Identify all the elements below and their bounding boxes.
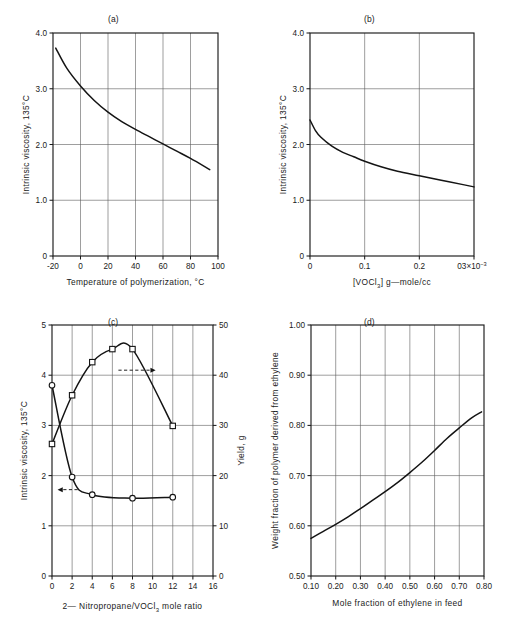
- xtick-label: 4: [90, 582, 95, 591]
- panel-a-plot: -2002040608010001.02.03.04.0 Temperature…: [0, 0, 256, 300]
- data-marker-square: [49, 441, 54, 446]
- ytick-label-right: 50: [219, 321, 229, 330]
- ytick-label-right: 0: [219, 572, 224, 581]
- xtick-label: 14: [188, 582, 198, 591]
- panel-a-curve: [56, 48, 210, 170]
- panel-d-xaxis-title: Mole fraction of ethylene in feed: [332, 598, 462, 608]
- xtick-label: 0.80: [476, 582, 492, 591]
- xtick-label: 40: [131, 262, 141, 271]
- xtick-label: 0.70: [451, 582, 467, 591]
- panel-d-ticklabels: 0.100.200.300.400.500.600.700.800.500.60…: [289, 321, 492, 591]
- ytick-label: 1.0: [293, 196, 305, 205]
- panel-a-xaxis-title: Temperature of polymerization, °C: [66, 277, 204, 287]
- panel-c-right-yaxis-title: Yield, g: [236, 435, 246, 465]
- panel-d-plot: 0.100.200.300.400.500.600.700.800.500.60…: [256, 317, 511, 634]
- left-axis-pointer-head: [58, 487, 63, 492]
- data-marker-square: [130, 346, 135, 351]
- ytick-label: 2.0: [36, 141, 48, 150]
- ytick-label: 0.60: [289, 522, 305, 531]
- xtick-label: 0: [308, 262, 313, 271]
- panel-d-frame: [311, 325, 484, 576]
- ytick-label-left: 1: [41, 522, 46, 531]
- panel-c-left-yaxis-title: Intrinsic viscosity, 135°C: [19, 401, 29, 500]
- panel-d-curve: [311, 412, 482, 538]
- panel-b-xaxis-title: [VOCl3] g—mole/cc: [353, 277, 431, 289]
- panel-b-plot: 00.10.203×10−301.02.03.04.0 [VOCl3] g—mo…: [256, 0, 511, 300]
- panel-c-plot: 024681012141601234501020304050 2— Nitrop…: [0, 317, 256, 634]
- panel-d-gridlines: [311, 325, 484, 576]
- xtick-label: 8: [130, 582, 135, 591]
- ytick-label: 0: [42, 252, 47, 261]
- ytick-label-right: 10: [219, 522, 229, 531]
- panel-d-yaxis-title: Weight fraction of polymer derived from …: [270, 352, 280, 549]
- panel-b-ticklabels: 00.10.203×10−301.02.03.04.0: [293, 29, 487, 271]
- data-marker-square: [110, 346, 115, 351]
- data-marker-square: [69, 393, 74, 398]
- ytick-label: 4.0: [293, 29, 305, 38]
- panel-a-ticklabels: -2002040608010001.02.03.04.0: [36, 29, 226, 271]
- panel-c: (c) 024681012141601234501020304050 2— Ni…: [0, 317, 256, 634]
- ytick-label: 4.0: [36, 29, 48, 38]
- xtick-label: 12: [168, 582, 178, 591]
- data-marker-circle: [69, 474, 75, 480]
- panel-c-ticklabels: 024681012141601234501020304050: [41, 321, 228, 591]
- xtick-label: 03×10−3: [457, 261, 486, 271]
- ytick-label-right: 30: [219, 421, 229, 430]
- panel-a-yaxis-title: Intrinsic viscosity, 135°C: [21, 95, 31, 194]
- xtick-label: 16: [208, 582, 218, 591]
- ytick-label-left: 4: [41, 371, 46, 380]
- xtick-label: 2: [70, 582, 75, 591]
- panel-c-xaxis-title: 2— Nitropropane/VOCl3 mole ratio: [63, 601, 203, 613]
- ytick-label-left: 2: [41, 472, 46, 481]
- xtick-label: 0.10: [303, 582, 319, 591]
- panel-b-curve: [310, 120, 474, 187]
- xtick-label: 80: [186, 262, 196, 271]
- xtick-label: 10: [148, 582, 158, 591]
- figure-sheet: (a) -2002040608010001.02.03.04.0 Tempera…: [0, 0, 511, 634]
- xtick-label: 6: [110, 582, 115, 591]
- ytick-label: 0: [299, 252, 304, 261]
- ytick-label: 0.70: [289, 472, 305, 481]
- ytick-label: 0.80: [289, 421, 305, 430]
- ytick-label: 0.50: [289, 572, 305, 581]
- panel-c-gridlines: [52, 325, 213, 576]
- ytick-label-right: 40: [219, 371, 229, 380]
- xtick-label: 100: [211, 262, 225, 271]
- ytick-label: 1.0: [36, 196, 48, 205]
- panel-a: (a) -2002040608010001.02.03.04.0 Tempera…: [0, 0, 256, 300]
- ytick-label: 3.0: [293, 85, 305, 94]
- panel-b: (b) 00.10.203×10−301.02.03.04.0 [VOCl3] …: [256, 0, 511, 300]
- data-marker-circle: [89, 492, 95, 498]
- ytick-label-left: 5: [41, 321, 46, 330]
- xtick-label: 0: [78, 262, 83, 271]
- xtick-label: 0.60: [427, 582, 443, 591]
- xtick-label: 0.50: [402, 582, 418, 591]
- ytick-label: 1.00: [289, 321, 305, 330]
- xtick-label: -20: [47, 262, 59, 271]
- panel-b-yaxis-title: Intrinsic viscosity, 135°C: [278, 95, 288, 194]
- ytick-label-left: 0: [41, 572, 46, 581]
- xtick-label: 0.40: [377, 582, 393, 591]
- xtick-label: 0.20: [328, 582, 344, 591]
- panel-a-tickmarks: [50, 33, 219, 260]
- xtick-label: 0.30: [352, 582, 368, 591]
- data-marker-square: [90, 359, 95, 364]
- ytick-label: 0.90: [289, 371, 305, 380]
- ytick-label-right: 20: [219, 472, 229, 481]
- xtick-label: 60: [158, 262, 168, 271]
- xtick-label: 0.1: [359, 262, 371, 271]
- xtick-label: 0.2: [414, 262, 426, 271]
- data-marker-square: [170, 423, 175, 428]
- xtick-label: 20: [103, 262, 113, 271]
- ytick-label: 2.0: [293, 141, 305, 150]
- panel-d-tickmarks: [308, 325, 485, 580]
- panel-b-gridlines: [310, 33, 474, 256]
- xtick-label: 0: [50, 582, 55, 591]
- panel-d: (d) 0.100.200.300.400.500.600.700.800.50…: [256, 317, 511, 634]
- data-marker-circle: [170, 494, 176, 500]
- data-marker-circle: [130, 495, 136, 501]
- ytick-label-left: 3: [41, 421, 46, 430]
- right-axis-pointer-head: [150, 368, 155, 373]
- panel-a-gridlines: [53, 33, 218, 256]
- ytick-label: 3.0: [36, 85, 48, 94]
